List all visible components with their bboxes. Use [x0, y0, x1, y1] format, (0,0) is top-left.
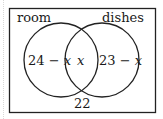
- set-label-room: room: [17, 10, 51, 25]
- venn-diagram: room dishes 24 − x x 23 − x 22: [0, 0, 163, 119]
- region-intersection: x: [77, 53, 85, 68]
- set-label-dishes: dishes: [102, 10, 144, 25]
- region-outside: 22: [74, 96, 91, 111]
- region-dishes-only-var: x: [135, 53, 143, 68]
- region-dishes-only-expr: 23 −: [99, 53, 135, 68]
- region-room-only-expr: 24 −: [28, 53, 64, 68]
- region-room-only-var: x: [64, 53, 72, 68]
- region-room-only: 24 − x: [28, 53, 72, 68]
- region-dishes-only: 23 − x: [99, 53, 143, 68]
